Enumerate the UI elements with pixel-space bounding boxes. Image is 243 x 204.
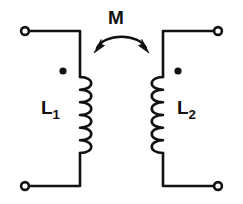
right-inductor-subscript: 2 (189, 107, 196, 122)
circuit-schematic-canvas (0, 0, 243, 204)
right-polarity-dot-icon (174, 67, 181, 74)
right-coil-winding (152, 77, 163, 153)
coupling-arrow-arc (97, 37, 146, 48)
mutual-inductance-label: M (108, 8, 124, 27)
bottom-left-terminal (21, 182, 29, 190)
bottom-right-terminal (214, 182, 222, 190)
coupling-arrow-icon (94, 37, 149, 53)
left-top-wire (27, 31, 80, 77)
mutual-inductance-diagram: M L1 L2 (0, 0, 243, 204)
right-bottom-wire (163, 153, 216, 186)
left-inductor-symbol: L (41, 97, 53, 118)
right-inductor-symbol: L (177, 97, 189, 118)
left-inductor-subscript: 1 (53, 107, 60, 122)
left-inductor-label: L1 (41, 98, 60, 121)
right-inductor-label: L2 (177, 98, 196, 121)
left-polarity-dot-icon (59, 67, 66, 74)
left-bottom-wire (27, 153, 80, 186)
top-right-terminal (214, 27, 222, 35)
left-coil-winding (80, 77, 91, 153)
right-top-wire (163, 31, 216, 77)
top-left-terminal (21, 27, 29, 35)
